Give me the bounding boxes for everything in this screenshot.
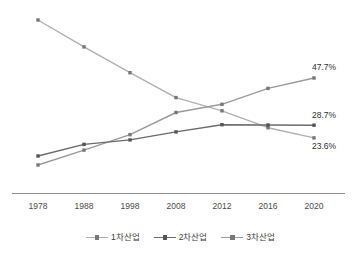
- data-point: [128, 133, 131, 136]
- data-point: [128, 138, 131, 141]
- value-label-1차산업: 23.6%: [312, 141, 337, 151]
- data-point: [312, 124, 315, 127]
- data-point: [220, 123, 223, 126]
- value-label-3차산업: 47.7%: [312, 62, 337, 72]
- legend-swatch-3차산업: [221, 233, 243, 242]
- line-chart: 1978198819982008201220162020 47.7% 28.7%…: [0, 0, 361, 253]
- legend-swatch-1차산업: [86, 233, 108, 242]
- data-point: [82, 45, 85, 48]
- chart-legend: 1차산업 2차산업 3차산업: [0, 233, 361, 242]
- series-markers-3차산업: [36, 76, 315, 166]
- legend-item-1차산업[interactable]: 1차산업: [86, 233, 140, 242]
- legend-label-2차산업: 2차산업: [179, 233, 208, 242]
- x-tick-label: 2012: [213, 201, 232, 211]
- x-tick-label: 1988: [75, 201, 94, 211]
- data-point: [266, 123, 269, 126]
- legend-swatch-2차산업: [154, 233, 176, 242]
- data-point: [36, 18, 39, 21]
- legend-label-1차산업: 1차산업: [111, 233, 140, 242]
- series-markers-1차산업: [36, 18, 315, 139]
- x-tick-label: 2020: [305, 201, 324, 211]
- series-line-3차산업: [38, 78, 314, 165]
- x-tick-label: 1998: [121, 201, 140, 211]
- x-tick-labels: 1978198819982008201220162020: [29, 201, 324, 211]
- data-point: [128, 71, 131, 74]
- data-point: [266, 87, 269, 90]
- data-point: [312, 136, 315, 139]
- data-point: [36, 154, 39, 157]
- legend-label-3차산업: 3차산업: [246, 233, 275, 242]
- data-point: [220, 109, 223, 112]
- value-label-2차산업: 28.7%: [312, 110, 337, 120]
- legend-item-2차산업[interactable]: 2차산업: [154, 233, 208, 242]
- legend-item-3차산업[interactable]: 3차산업: [221, 233, 275, 242]
- x-tick-label: 1978: [29, 201, 48, 211]
- chart-plot-area: 1978198819982008201220162020 47.7% 28.7%…: [0, 0, 361, 253]
- data-point: [36, 163, 39, 166]
- data-point: [82, 143, 85, 146]
- data-point: [174, 96, 177, 99]
- data-point: [174, 111, 177, 114]
- x-tick-label: 2016: [259, 201, 278, 211]
- data-point: [220, 103, 223, 106]
- data-point: [312, 76, 315, 79]
- series-line-1차산업: [38, 20, 314, 138]
- x-tick-label: 2008: [167, 201, 186, 211]
- data-point: [174, 130, 177, 133]
- data-point: [82, 148, 85, 151]
